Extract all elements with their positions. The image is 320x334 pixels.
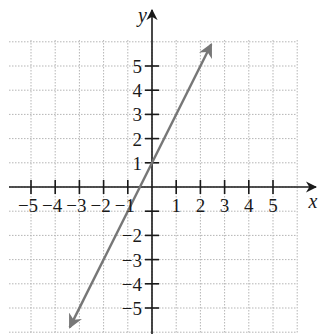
y-tick-label: −5: [122, 298, 142, 319]
x-tick-label: 3: [220, 195, 230, 216]
y-tick-label: 5: [133, 56, 143, 77]
x-tick-label: 4: [244, 195, 254, 216]
y-tick-label: 4: [133, 80, 143, 101]
x-tick-label: −5: [18, 195, 38, 216]
y-tick-label: −4: [122, 274, 143, 295]
y-tick-label: −2: [122, 225, 142, 246]
y-tick-label: −3: [122, 250, 142, 271]
x-tick-label: 2: [196, 195, 206, 216]
y-tick-label: 3: [133, 104, 143, 125]
x-axis-label: x: [308, 190, 318, 212]
x-tick-label: −4: [42, 195, 63, 216]
x-tick-label: −2: [90, 195, 110, 216]
x-tick-label: 1: [171, 195, 181, 216]
coordinate-plane-chart: −5−4−3−2−112345−5−4−3−212345yx: [0, 0, 320, 334]
y-tick-label: 1: [133, 153, 143, 174]
x-tick-label: 5: [268, 195, 278, 216]
x-tick-label: −3: [66, 195, 86, 216]
x-tick-label: −1: [115, 195, 135, 216]
y-tick-label: 2: [133, 129, 143, 150]
y-axis-label: y: [136, 4, 147, 27]
